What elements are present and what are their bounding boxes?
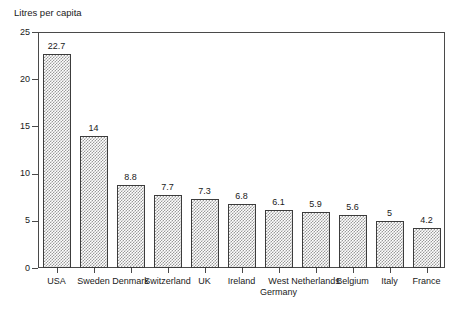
x-axis-tick: [168, 268, 169, 273]
bar[interactable]: [191, 199, 219, 268]
bar-group: 14: [80, 32, 108, 268]
bar[interactable]: [154, 195, 182, 268]
bar-group: 7.7: [154, 32, 182, 268]
y-axis-label: 10: [0, 169, 30, 178]
x-axis-tick: [427, 268, 428, 273]
y-axis-tick: [32, 268, 38, 269]
bar[interactable]: [43, 54, 71, 268]
bar-chart: Litres per capita 0510152025 22.7148.87.…: [0, 0, 457, 312]
x-axis-tick: [205, 268, 206, 273]
x-axis-label-line: France: [390, 276, 457, 287]
bar-group: 5.9: [302, 32, 330, 268]
bar-value-label: 14: [68, 124, 120, 133]
bar[interactable]: [302, 212, 330, 268]
y-axis-label: 20: [0, 75, 30, 84]
y-axis-label: 25: [0, 28, 30, 37]
bar-value-label: 22.7: [31, 42, 83, 51]
bar-group: 5.6: [339, 32, 367, 268]
x-axis-tick: [94, 268, 95, 273]
bar[interactable]: [339, 215, 367, 268]
bar[interactable]: [80, 136, 108, 268]
bar[interactable]: [117, 185, 145, 268]
bar-group: 22.7: [43, 32, 71, 268]
x-axis-tick: [242, 268, 243, 273]
chart-axis-title: Litres per capita: [14, 7, 82, 18]
x-axis-tick: [131, 268, 132, 273]
bar-group: 7.3: [191, 32, 219, 268]
bar-value-label: 8.8: [105, 173, 157, 182]
x-axis-tick: [316, 268, 317, 273]
bar[interactable]: [228, 204, 256, 268]
bar[interactable]: [265, 210, 293, 268]
x-axis-label-line: Germany: [242, 287, 316, 298]
x-axis-label: France: [390, 276, 457, 287]
y-axis-label: 5: [0, 216, 30, 225]
x-axis-tick: [353, 268, 354, 273]
x-axis-tick: [57, 268, 58, 273]
bar-group: 6.1: [265, 32, 293, 268]
bars-layer: 22.7148.87.77.36.86.15.95.654.2: [38, 32, 445, 268]
bar-group: 8.8: [117, 32, 145, 268]
bar[interactable]: [413, 228, 441, 268]
bar-group: 5: [376, 32, 404, 268]
x-axis-tick: [279, 268, 280, 273]
bar-group: 6.8: [228, 32, 256, 268]
bar-group: 4.2: [413, 32, 441, 268]
y-axis-label: 15: [0, 122, 30, 131]
bar[interactable]: [376, 221, 404, 268]
bar-value-label: 4.2: [401, 216, 453, 225]
y-axis-label: 0: [0, 264, 30, 273]
x-axis-tick: [390, 268, 391, 273]
